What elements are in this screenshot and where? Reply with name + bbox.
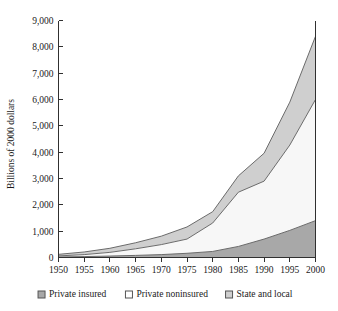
legend-swatch-icon bbox=[38, 291, 45, 298]
y-axis-ticks bbox=[59, 21, 63, 258]
legend-item-private-noninsured: Private noninsured bbox=[125, 289, 208, 299]
y-tick-label-0: 0 bbox=[49, 253, 54, 263]
legend-label: Private noninsured bbox=[136, 289, 208, 299]
x-tick-label-1960: 1960 bbox=[100, 265, 119, 275]
legend-swatch-icon bbox=[125, 291, 132, 298]
x-tick-label-2000: 2000 bbox=[306, 265, 325, 275]
y-tick-label-9000: 9,000 bbox=[32, 16, 54, 26]
stacked-area-chart: 01,0002,0003,0004,0005,0006,0007,0008,00… bbox=[0, 0, 338, 311]
x-tick-label-1985: 1985 bbox=[229, 265, 248, 275]
legend-item-private-insured: Private insured bbox=[38, 289, 107, 299]
y-tick-label-3000: 3,000 bbox=[32, 174, 54, 184]
legend-swatch-icon bbox=[226, 291, 233, 298]
y-axis-tick-labels: 01,0002,0003,0004,0005,0006,0007,0008,00… bbox=[32, 16, 54, 263]
plot-area bbox=[59, 36, 316, 257]
y-tick-label-8000: 8,000 bbox=[32, 42, 54, 52]
legend-item-state-and-local: State and local bbox=[226, 289, 293, 299]
y-tick-label-6000: 6,000 bbox=[32, 95, 54, 105]
chart-canvas: 01,0002,0003,0004,0005,0006,0007,0008,00… bbox=[0, 0, 338, 311]
y-tick-label-2000: 2,000 bbox=[32, 200, 54, 210]
y-tick-label-4000: 4,000 bbox=[32, 148, 54, 158]
x-tick-label-1970: 1970 bbox=[152, 265, 171, 275]
x-tick-label-1965: 1965 bbox=[126, 265, 145, 275]
x-tick-label-1950: 1950 bbox=[49, 265, 68, 275]
y-axis-title: Billions of 2000 dollars bbox=[6, 99, 16, 189]
x-tick-label-1975: 1975 bbox=[178, 265, 197, 275]
x-axis-ticks bbox=[59, 258, 316, 262]
legend-label: Private insured bbox=[49, 289, 107, 299]
x-axis-tick-labels: 1950195519601965197019751980198519901995… bbox=[49, 265, 325, 275]
x-tick-label-1995: 1995 bbox=[280, 265, 299, 275]
y-tick-label-1000: 1,000 bbox=[32, 227, 54, 237]
y-tick-label-5000: 5,000 bbox=[32, 121, 54, 131]
legend-label: State and local bbox=[237, 289, 293, 299]
x-tick-label-1990: 1990 bbox=[255, 265, 274, 275]
x-tick-label-1955: 1955 bbox=[75, 265, 94, 275]
x-tick-label-1980: 1980 bbox=[203, 265, 222, 275]
y-tick-label-7000: 7,000 bbox=[32, 69, 54, 79]
chart-legend: Private insuredPrivate noninsuredState a… bbox=[38, 289, 293, 299]
